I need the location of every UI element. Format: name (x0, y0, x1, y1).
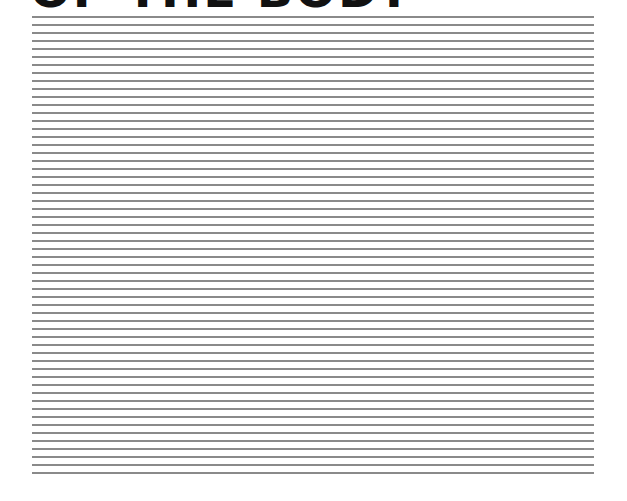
ruled-line (32, 424, 594, 426)
ruled-line (32, 408, 594, 410)
ruled-line (32, 312, 594, 314)
ruled-line (32, 368, 594, 370)
ruled-line (32, 72, 594, 74)
ruled-line (32, 280, 594, 282)
ruled-line (32, 264, 594, 266)
ruled-line (32, 88, 594, 90)
ruled-line (32, 16, 594, 18)
ruled-line (32, 136, 594, 138)
ruled-line (32, 328, 594, 330)
ruled-line (32, 432, 594, 434)
ruled-line (32, 96, 594, 98)
ruled-line (32, 296, 594, 298)
ruled-line (32, 352, 594, 354)
ruled-line (32, 344, 594, 346)
ruled-line (32, 200, 594, 202)
ruled-line (32, 184, 594, 186)
ruled-line (32, 128, 594, 130)
ruled-line (32, 320, 594, 322)
ruled-line (32, 472, 594, 474)
ruled-line (32, 160, 594, 162)
ruled-line (32, 416, 594, 418)
ruled-line (32, 104, 594, 106)
ruled-line (32, 272, 594, 274)
ruled-line (32, 304, 594, 306)
ruled-line (32, 192, 594, 194)
ruled-line (32, 360, 594, 362)
ruled-line (32, 144, 594, 146)
ruled-line (32, 376, 594, 378)
ruled-line (32, 248, 594, 250)
ruled-line (32, 384, 594, 386)
ruled-line (32, 232, 594, 234)
ruled-line (32, 392, 594, 394)
ruled-line (32, 80, 594, 82)
ruled-line (32, 112, 594, 114)
ruled-line (32, 176, 594, 178)
ruled-line (32, 448, 594, 450)
ruled-line (32, 32, 594, 34)
ruled-line (32, 288, 594, 290)
ruled-line (32, 152, 594, 154)
ruled-line (32, 24, 594, 26)
ruled-line (32, 224, 594, 226)
ruled-line (32, 440, 594, 442)
ruled-line (32, 240, 594, 242)
ruled-line (32, 256, 594, 258)
ruled-line (32, 168, 594, 170)
ruled-line (32, 64, 594, 66)
ruled-line (32, 464, 594, 466)
ruled-line (32, 216, 594, 218)
ruled-line (32, 456, 594, 458)
ruled-line (32, 40, 594, 42)
ruled-line (32, 56, 594, 58)
ruled-line (32, 208, 594, 210)
page-title: OF THE BODY (30, 0, 413, 14)
ruled-line (32, 48, 594, 50)
ruled-line (32, 120, 594, 122)
ruled-lines (32, 16, 594, 480)
ruled-line (32, 400, 594, 402)
ruled-line (32, 336, 594, 338)
